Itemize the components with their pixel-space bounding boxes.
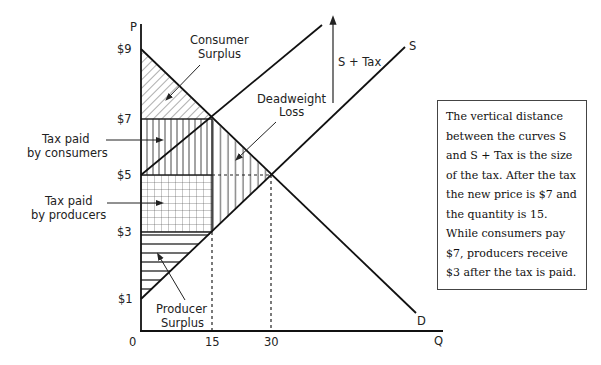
x-tick-30: 30 bbox=[264, 335, 279, 349]
origin-label: 0 bbox=[129, 335, 136, 349]
producer-surplus-label: Producer bbox=[156, 302, 207, 316]
tax-consumers-label: Tax paid bbox=[41, 132, 89, 146]
demand-label: D bbox=[417, 314, 426, 328]
x-tick-15: 15 bbox=[205, 335, 220, 349]
tax-consumers-label-2: by consumers bbox=[27, 146, 108, 160]
producer-surplus-label-2: Surplus bbox=[161, 316, 204, 330]
deadweight-loss-label: Deadweight bbox=[257, 92, 327, 106]
y-tick-7: $7 bbox=[117, 112, 132, 126]
tax-producers-label: Tax paid bbox=[44, 194, 92, 208]
consumer-surplus-label-2: Surplus bbox=[198, 47, 241, 61]
x-axis-label: Q bbox=[434, 334, 443, 348]
y-tick-5: $5 bbox=[117, 168, 132, 182]
y-tick-1: $1 bbox=[118, 292, 133, 306]
explanation-box: The vertical distance between the curves… bbox=[437, 100, 587, 290]
deadweight-loss-pointer bbox=[238, 122, 276, 158]
y-tick-3: $3 bbox=[117, 225, 132, 239]
tax-producers-label-2: by producers bbox=[31, 208, 106, 222]
y-axis-label: P bbox=[130, 20, 137, 34]
y-tick-9: $9 bbox=[117, 42, 132, 56]
supply-label: S bbox=[409, 39, 416, 53]
supply-tax-label: S + Tax bbox=[338, 55, 381, 69]
deadweight-loss-label-2: Loss bbox=[279, 105, 304, 119]
consumer-surplus-label: Consumer bbox=[190, 33, 249, 47]
explanation-text: The vertical distance between the curves… bbox=[446, 110, 577, 279]
